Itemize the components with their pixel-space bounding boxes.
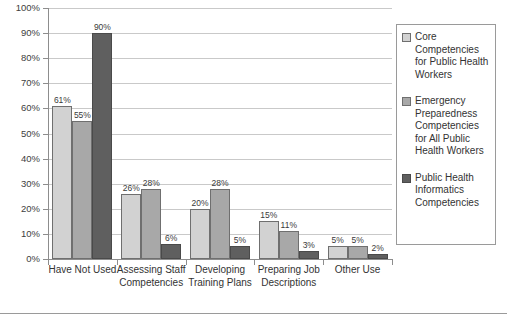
bar bbox=[230, 246, 250, 259]
y-axis-tick-label: 90% bbox=[21, 28, 40, 38]
x-axis-tick-mark bbox=[186, 260, 187, 265]
bar bbox=[368, 254, 388, 259]
legend-entry: Emergency Preparedness Competencies for … bbox=[402, 95, 491, 158]
legend-entry: Core Competencies for Public Health Work… bbox=[402, 31, 491, 81]
bar-value-label: 28% bbox=[131, 179, 171, 188]
bar-value-label: 28% bbox=[200, 179, 240, 188]
y-axis-tick-mark bbox=[43, 134, 48, 135]
bar bbox=[72, 121, 92, 259]
y-axis-tick-label: 10% bbox=[21, 229, 40, 239]
x-axis-line bbox=[48, 259, 393, 260]
bar bbox=[121, 194, 141, 259]
y-axis: 0%10%20%30%40%50%60%70%80%90%100% bbox=[0, 0, 44, 262]
x-axis-category-label: Developing Training Plans bbox=[186, 264, 255, 289]
x-axis-category-label: Assessing Staff Competencies bbox=[117, 264, 186, 289]
y-axis-tick-label: 50% bbox=[21, 129, 40, 139]
x-axis-tick-mark bbox=[323, 260, 324, 265]
x-axis-tick-mark bbox=[254, 260, 255, 265]
y-axis-tick-label: 30% bbox=[21, 179, 40, 189]
y-axis-tick-mark bbox=[43, 184, 48, 185]
bar-value-label: 2% bbox=[358, 244, 398, 253]
bar-value-label: 90% bbox=[82, 23, 122, 32]
bar-group: 15%11%3% bbox=[259, 8, 319, 259]
bar-group: 20%28%5% bbox=[190, 8, 250, 259]
legend-color-swatch bbox=[402, 97, 411, 106]
y-axis-tick-mark bbox=[43, 58, 48, 59]
footer-divider bbox=[0, 313, 507, 314]
bar-value-label: 11% bbox=[269, 221, 309, 230]
y-axis-tick-mark bbox=[43, 33, 48, 34]
bar-group: 5%5%2% bbox=[328, 8, 388, 259]
y-axis-tick-mark bbox=[43, 209, 48, 210]
x-axis-category-labels: Have Not UsedAssessing Staff Competencie… bbox=[48, 264, 392, 310]
bar bbox=[92, 33, 112, 259]
x-axis-tick-mark bbox=[392, 260, 393, 265]
y-axis-tick-label: 100% bbox=[16, 3, 40, 13]
legend-label: Core Competencies for Public Health Work… bbox=[415, 31, 491, 81]
legend-label: Emergency Preparedness Competencies for … bbox=[415, 95, 491, 158]
y-axis-tick-mark bbox=[43, 8, 48, 9]
y-axis-tick-label: 20% bbox=[21, 204, 40, 214]
legend-label: Public Health Informatics Competencies bbox=[415, 172, 491, 210]
bar bbox=[52, 106, 72, 259]
bar-value-label: 5% bbox=[220, 236, 260, 245]
bar bbox=[210, 189, 230, 259]
x-axis-tick-mark bbox=[117, 260, 118, 265]
bar bbox=[141, 189, 161, 259]
bar-value-label: 6% bbox=[151, 234, 191, 243]
x-axis-category-label: Preparing Job Descriptions bbox=[254, 264, 323, 289]
bar-groups: 61%55%90%26%28%6%20%28%5%15%11%3%5%5%2% bbox=[48, 8, 392, 259]
x-axis-category-label: Other Use bbox=[323, 264, 392, 277]
y-axis-tick-label: 0% bbox=[26, 254, 40, 264]
legend-color-swatch bbox=[402, 33, 411, 42]
y-axis-tick-mark bbox=[43, 159, 48, 160]
bar-value-label: 15% bbox=[249, 211, 289, 220]
y-axis-tick-label: 80% bbox=[21, 53, 40, 63]
y-axis-tick-label: 60% bbox=[21, 104, 40, 114]
y-axis-tick-label: 70% bbox=[21, 79, 40, 89]
y-axis-tick-mark bbox=[43, 234, 48, 235]
y-axis-tick-label: 40% bbox=[21, 154, 40, 164]
y-axis-tick-mark bbox=[43, 83, 48, 84]
bar-value-label: 61% bbox=[42, 96, 82, 105]
legend-color-swatch bbox=[402, 174, 411, 183]
bar bbox=[328, 246, 348, 259]
legend-entry: Public Health Informatics Competencies bbox=[402, 172, 491, 210]
bar bbox=[161, 244, 181, 259]
y-axis-tick-mark bbox=[43, 108, 48, 109]
bar-group: 26%28%6% bbox=[121, 8, 181, 259]
x-axis-category-label: Have Not Used bbox=[48, 264, 117, 277]
bar-group: 61%55%90% bbox=[52, 8, 112, 259]
x-axis-tick-mark bbox=[48, 260, 49, 265]
chart-legend: Core Competencies for Public Health Work… bbox=[396, 24, 496, 245]
bar bbox=[190, 209, 210, 259]
bar bbox=[299, 251, 319, 259]
chart-page: 0%10%20%30%40%50%60%70%80%90%100% 61%55%… bbox=[0, 0, 507, 322]
